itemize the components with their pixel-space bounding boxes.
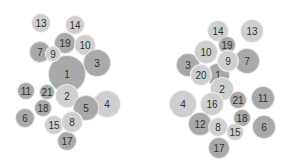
node-circle-11: 11 <box>251 86 275 110</box>
node-circle-21: 21 <box>229 91 247 109</box>
node-circle-13: 13 <box>240 19 264 43</box>
right-cluster: 14131931107920211416211218681517 <box>0 0 283 168</box>
node-circle-10: 10 <box>194 40 218 64</box>
node-circle-6: 6 <box>252 115 276 139</box>
node-circle-9: 9 <box>217 50 239 72</box>
node-circle-15: 15 <box>226 123 244 141</box>
node-circle-20: 20 <box>190 64 212 86</box>
node-circle-8: 8 <box>208 117 228 137</box>
node-circle-17: 17 <box>208 137 230 159</box>
